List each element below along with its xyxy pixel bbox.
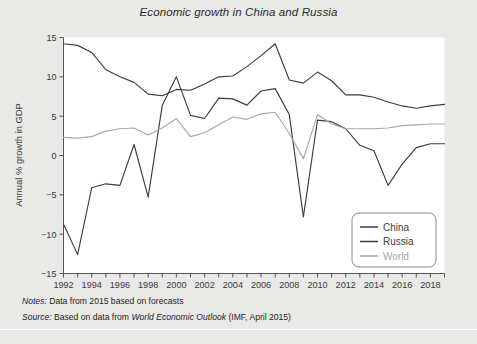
- y-tick-label: 15: [46, 33, 56, 43]
- x-tick-label: 2000: [166, 280, 186, 290]
- source-text-before: Based on data from: [54, 312, 129, 322]
- y-tick-label: 0: [51, 151, 56, 161]
- legend-label-russia[interactable]: Russia: [383, 236, 414, 247]
- y-tick-label: −5: [46, 190, 56, 200]
- y-tick-label: −10: [41, 230, 56, 240]
- x-tick-label: 2004: [223, 280, 243, 290]
- legend-label-world[interactable]: World: [383, 251, 409, 262]
- source-publication: World Economic Outlook: [131, 312, 226, 322]
- source-text-after: (IMF, April 2015): [228, 312, 291, 322]
- notes-label: Notes:: [22, 296, 47, 306]
- chart-figure: Economic growth in China and Russia −15−…: [0, 0, 477, 344]
- x-tick-label: 2012: [336, 280, 356, 290]
- chart-plot-area: −15−10−5051015 1992199419961998200020022…: [0, 0, 477, 290]
- x-tick-label: 1998: [138, 280, 158, 290]
- x-tick-label: 1994: [82, 280, 102, 290]
- x-tick-label: 2002: [194, 280, 214, 290]
- y-tick-label: 5: [51, 112, 56, 122]
- source-label: Source:: [22, 312, 52, 322]
- bottom-divider: [0, 329, 477, 330]
- x-tick-label: 2010: [307, 280, 327, 290]
- x-tick-label: 2014: [364, 280, 384, 290]
- source-footnote: Source: Based on data from World Economi…: [22, 312, 291, 322]
- notes-footnote: Notes: Data from 2015 based on forecasts: [22, 296, 183, 306]
- x-tick-label: 2006: [251, 280, 271, 290]
- x-tick-label: 1992: [53, 280, 73, 290]
- y-axis-label: Annual % growth in GDP: [13, 103, 24, 207]
- notes-text: Data from 2015 based on forecasts: [49, 296, 183, 306]
- y-axis-ticks: −15−10−5051015: [41, 33, 63, 279]
- legend-label-china[interactable]: China: [383, 222, 410, 233]
- chart-legend[interactable]: ChinaRussiaWorld: [352, 213, 436, 267]
- x-tick-label: 2018: [420, 280, 440, 290]
- x-tick-label: 1996: [110, 280, 130, 290]
- x-tick-label: 2008: [279, 280, 299, 290]
- x-axis-ticks: 1992199419961998200020022004200620082010…: [53, 274, 444, 290]
- y-tick-label: −15: [41, 269, 56, 279]
- y-tick-label: 10: [46, 72, 56, 82]
- x-tick-label: 2016: [392, 280, 412, 290]
